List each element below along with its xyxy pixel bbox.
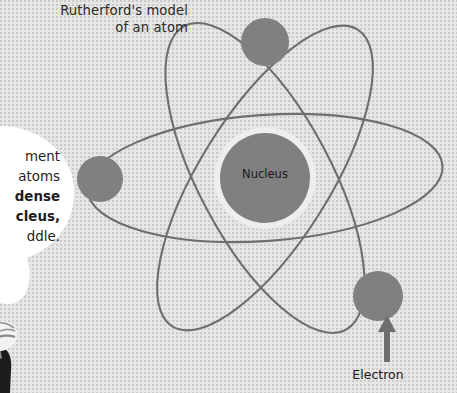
speech-bubble-text: ment atoms dense cleus, ddle. [0,147,60,247]
nucleus [220,133,310,223]
scientist-figure [0,318,46,393]
figure-suit [0,348,11,393]
bubble-line-2: atoms [0,167,60,187]
bubble-line-1: ment [0,147,60,167]
bubble-line-3: dense [0,187,60,207]
bubble-line-4: cleus, [0,207,60,227]
electron-label: Electron [330,367,426,382]
illustration-canvas: Nucleus Electron Rutherford's model of a… [0,0,457,393]
page-title: Rutherford's model of an atom [0,2,188,36]
electron-top [241,18,289,66]
electron-bottom-right [353,271,403,321]
bubble-line-5: ddle. [0,227,60,247]
electron-left [77,156,123,202]
electron-arrow-icon [378,315,396,362]
